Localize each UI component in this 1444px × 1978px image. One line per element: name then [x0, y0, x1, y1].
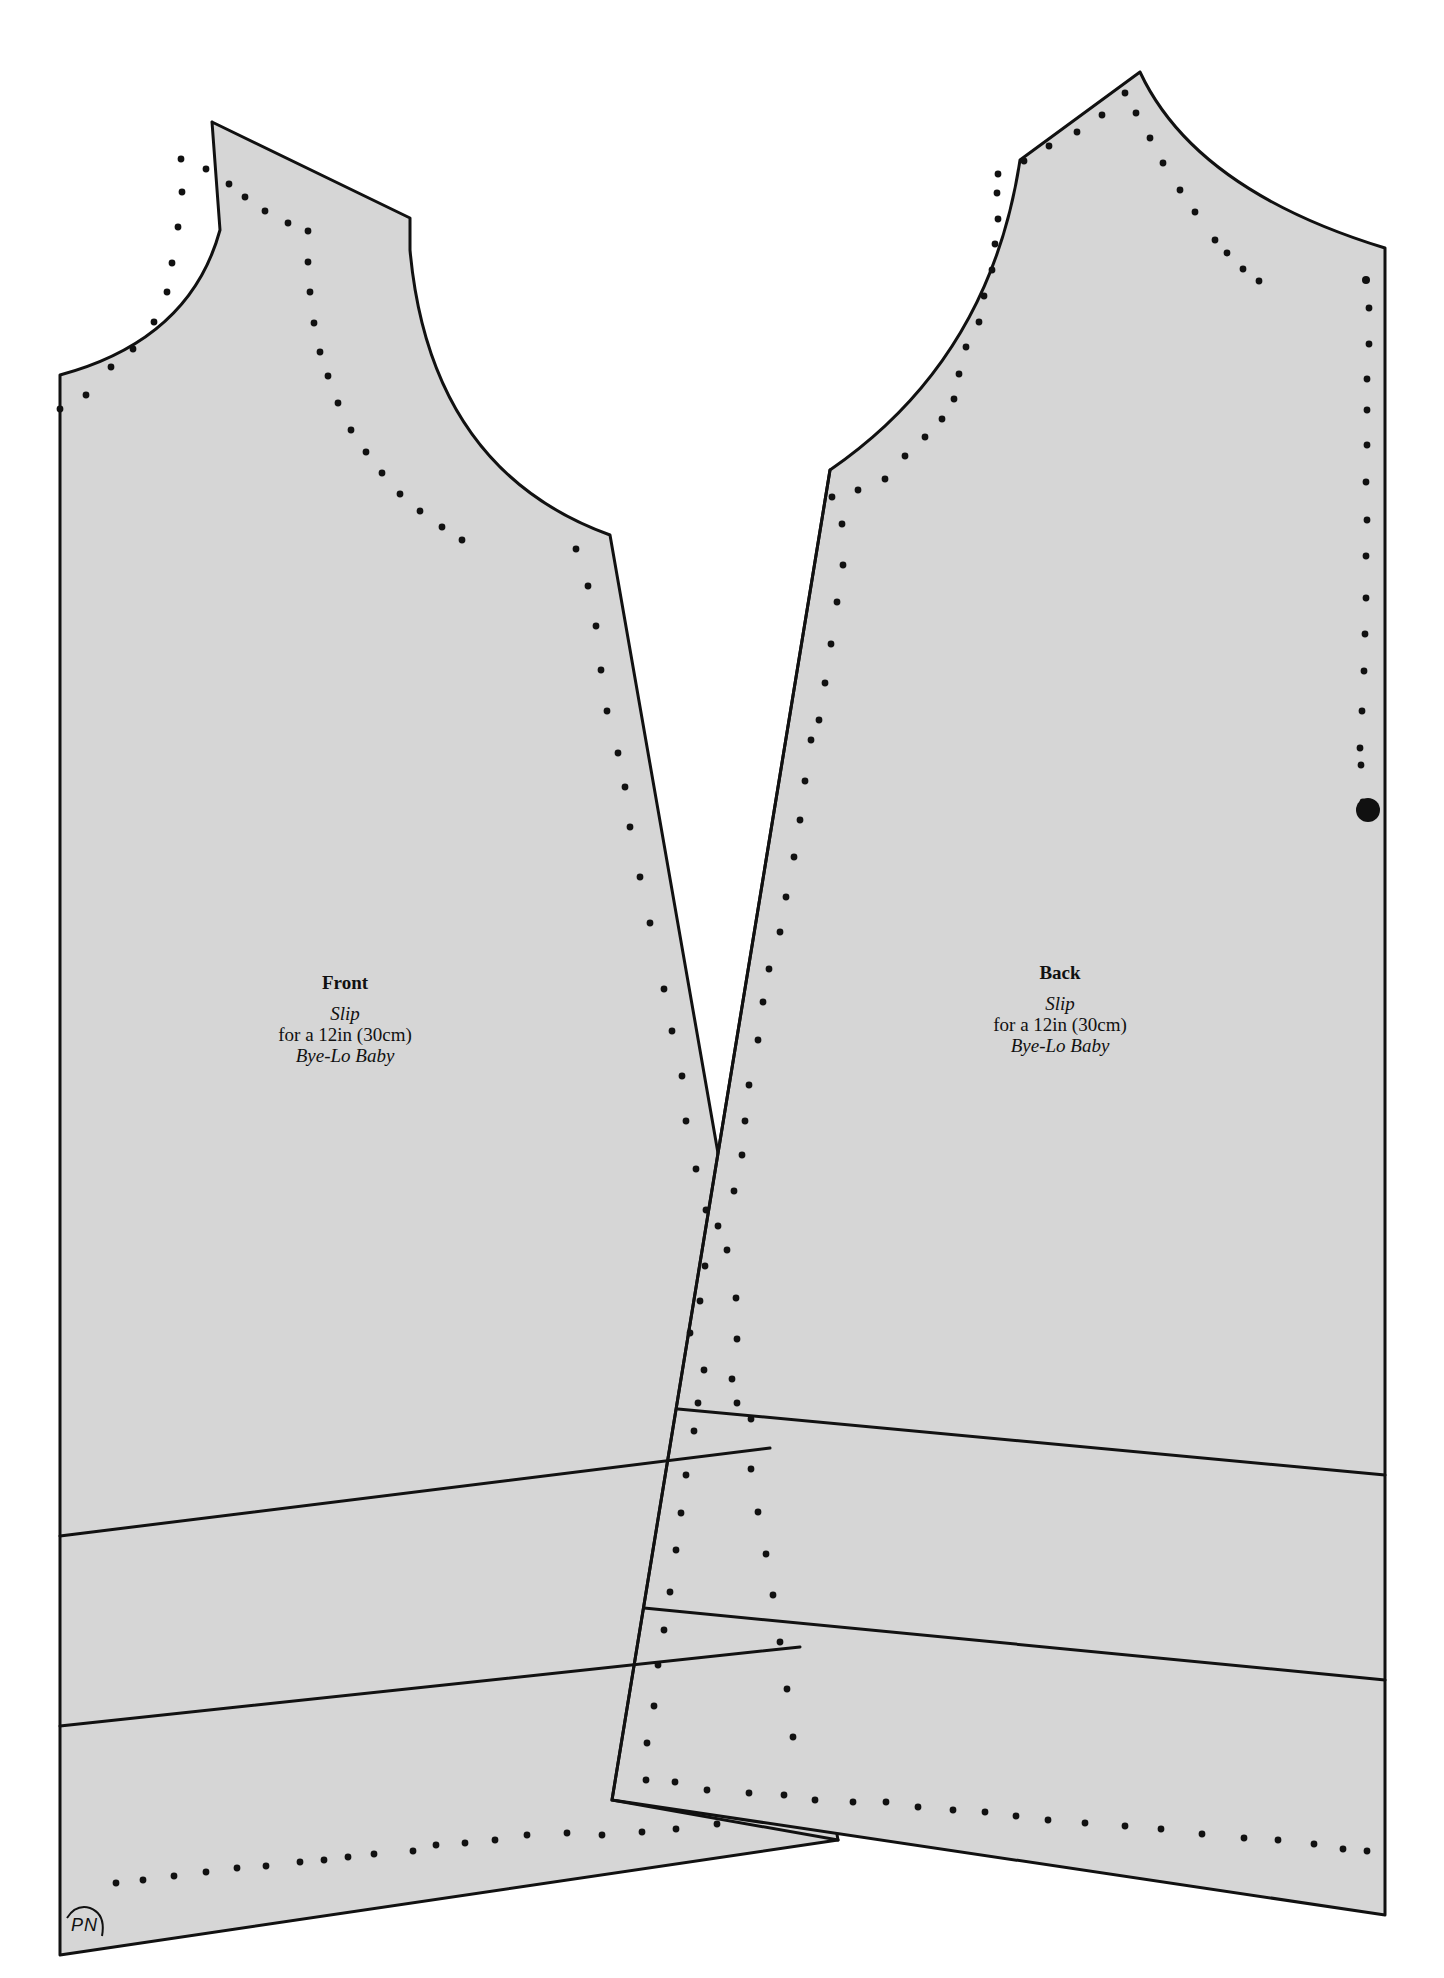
- pattern-canvas: [0, 0, 1444, 1978]
- front-title: Front: [245, 972, 445, 993]
- front-garment: Slip: [245, 1003, 445, 1024]
- initials-text: PN: [71, 1915, 98, 1936]
- front-doll: Bye-Lo Baby: [245, 1045, 445, 1066]
- designer-initials-mark: PN: [62, 1906, 108, 1940]
- front-piece-label: Front Slip for a 12in (30cm) Bye-Lo Baby: [245, 972, 445, 1066]
- back-size: for a 12in (30cm): [960, 1014, 1160, 1035]
- back-piece-label: Back Slip for a 12in (30cm) Bye-Lo Baby: [960, 962, 1160, 1056]
- large-dot-marker: [1356, 798, 1380, 822]
- back-title: Back: [960, 962, 1160, 983]
- back-doll: Bye-Lo Baby: [960, 1035, 1160, 1056]
- front-size: for a 12in (30cm): [245, 1024, 445, 1045]
- back-garment: Slip: [960, 993, 1160, 1014]
